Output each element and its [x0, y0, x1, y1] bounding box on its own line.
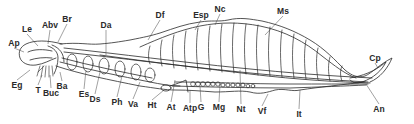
- leader-t: [38, 75, 42, 85]
- rostrum-outline: [19, 41, 62, 65]
- leader-le: [27, 34, 38, 46]
- label-esp: Esp: [193, 11, 209, 20]
- label-g: G: [198, 103, 205, 112]
- leader-mg: [219, 84, 220, 102]
- leader-df: [148, 20, 160, 40]
- label-nt: Nt: [237, 105, 246, 114]
- oral-cirri: [37, 66, 53, 77]
- leader-ba: [60, 72, 62, 81]
- leader-it: [299, 90, 300, 109]
- intestine: [175, 82, 368, 84]
- label-cp: Cp: [369, 54, 380, 63]
- label-ap: Ap: [8, 39, 19, 48]
- leader-ht: [152, 90, 164, 100]
- label-ph: Ph: [112, 98, 123, 107]
- label-da: Da: [101, 21, 112, 30]
- leader-es: [84, 70, 86, 89]
- label-ds: Ds: [90, 95, 101, 104]
- label-le: Le: [22, 25, 32, 34]
- label-mg: Mg: [213, 103, 225, 112]
- leader-lines: [14, 14, 379, 109]
- gill-slits: [67, 54, 155, 82]
- heart: [161, 85, 171, 91]
- leader-nt: [240, 70, 241, 104]
- label-an: An: [373, 105, 384, 114]
- leader-an: [366, 84, 379, 104]
- label-atp: Atp: [183, 104, 197, 113]
- leader-cp: [375, 63, 378, 68]
- leader-vf: [262, 94, 268, 106]
- label-df: Df: [156, 11, 165, 20]
- label-abv: Abv: [42, 21, 58, 30]
- lancelet-diagram: ApLeAbvBrDaDfEspNcMsCpAnEgTBucBaEsDsPhVa…: [0, 0, 414, 124]
- leader-br: [58, 24, 67, 42]
- label-ms: Ms: [277, 7, 289, 16]
- label-at: At: [167, 103, 176, 112]
- label-va: Va: [128, 100, 138, 109]
- label-ba: Ba: [57, 82, 68, 91]
- label-vf: Vf: [258, 107, 267, 116]
- leader-ph: [117, 76, 122, 97]
- leader-eg: [17, 70, 30, 80]
- label-eg: Eg: [12, 81, 23, 90]
- leader-g: [200, 86, 201, 102]
- label-br: Br: [62, 15, 71, 24]
- label-nc: Nc: [215, 5, 226, 14]
- leader-buc: [50, 75, 51, 88]
- leader-at: [171, 80, 175, 102]
- label-t: T: [35, 86, 40, 95]
- leader-ds: [95, 72, 100, 94]
- label-ht: Ht: [148, 101, 157, 110]
- ventral-outline: [56, 66, 365, 93]
- label-it: It: [296, 110, 301, 119]
- label-es: Es: [79, 90, 89, 99]
- leader-abv: [48, 30, 50, 44]
